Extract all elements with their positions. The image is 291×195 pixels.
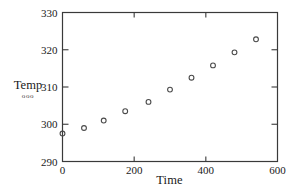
data-point-marker bbox=[211, 63, 216, 68]
data-point-marker bbox=[82, 126, 87, 131]
x-axis-label: Time bbox=[0, 173, 291, 188]
data-point-marker bbox=[146, 100, 151, 105]
data-points bbox=[60, 37, 258, 136]
svg-text:290: 290 bbox=[41, 156, 58, 168]
data-point-marker bbox=[168, 87, 173, 92]
data-point-marker bbox=[101, 118, 106, 123]
data-point-marker bbox=[123, 109, 128, 114]
svg-text:300: 300 bbox=[41, 118, 58, 130]
y-axis-label-marker-glyphs: ooo bbox=[5, 93, 51, 100]
svg-text:320: 320 bbox=[41, 44, 58, 56]
svg-text:330: 330 bbox=[41, 7, 58, 19]
scatter-chart-figure: Temp ooo Time 0200400600 290300310320330 bbox=[0, 0, 291, 195]
data-point-marker bbox=[254, 37, 259, 42]
y-axis-label: Temp ooo bbox=[5, 79, 51, 100]
y-axis-label-text: Temp bbox=[5, 79, 51, 92]
data-point-marker bbox=[189, 75, 194, 80]
data-point-marker bbox=[232, 50, 237, 55]
